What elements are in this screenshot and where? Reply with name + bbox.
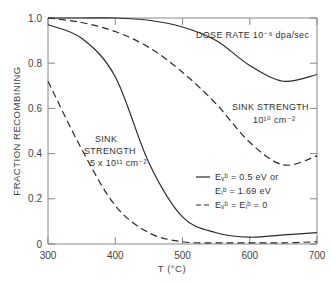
x-tick-label: 600 [241, 250, 258, 261]
legend-dashed-label: Eᵥᵇ = Eᵢᵇ = 0 [215, 200, 268, 210]
y-tick-label: 0 [36, 239, 42, 250]
y-tick-label: 0.4 [28, 148, 42, 159]
legend: Eᵥᵇ = 0.5 eV or Eᵢᵇ = 1.69 eV Eᵥᵇ = Eᵢᵇ … [196, 172, 279, 210]
y-tick-label: 1.0 [28, 13, 42, 24]
series-line-2 [48, 18, 317, 165]
y-axis-title: FRACTION RECOMBINING [11, 66, 22, 195]
sink-high-label-1: SINK [95, 134, 117, 144]
y-tick-label: 0.2 [28, 193, 42, 204]
axes: 30040050060070000.20.40.60.81.0 [28, 13, 326, 262]
x-tick-label: 300 [40, 250, 57, 261]
x-tick-label: 500 [174, 250, 191, 261]
legend-solid-label-1: Eᵥᵇ = 0.5 eV or [215, 172, 279, 182]
annotations: DOSE RATE 10⁻⁶ dpa/sec SINK STRENGTH 10¹… [84, 30, 309, 168]
series-line-3 [48, 25, 317, 237]
y-tick-label: 0.8 [28, 58, 42, 69]
dose-rate-label: DOSE RATE 10⁻⁶ dpa/sec [196, 30, 309, 40]
series-lines [48, 18, 317, 243]
x-tick-label: 400 [107, 250, 124, 261]
fraction-recombining-chart: 30040050060070000.20.40.60.81.0 DOSE RAT… [0, 0, 331, 283]
sink-low-label-1: SINK STRENGTH [232, 102, 309, 112]
y-tick-label: 0.6 [28, 103, 42, 114]
x-axis-title: T (°C) [158, 263, 186, 274]
legend-solid-label-2: Eᵢᵇ = 1.69 eV [215, 186, 271, 196]
sink-high-label-3: 5 x 10¹¹ cm⁻² [90, 158, 147, 168]
sink-low-label-2: 10¹⁰ cm⁻² [253, 115, 295, 125]
x-tick-label: 700 [309, 250, 326, 261]
sink-high-label-2: STRENGTH [84, 146, 136, 156]
